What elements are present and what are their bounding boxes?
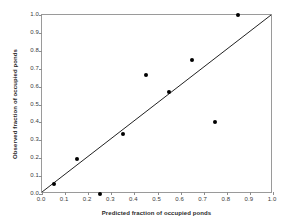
x-axis-tick-label: 0.5 [152,196,161,202]
x-axis-tick-label: 0.7 [198,196,207,202]
x-axis-tick-mark [65,192,66,195]
y-axis-tick-label: 0.4 [30,118,39,124]
y-axis-tick-mark [39,87,42,88]
x-axis-tick-label: 0.1 [60,196,69,202]
y-axis-tick-label: 0.3 [30,136,39,142]
data-point [190,58,194,62]
x-axis-tick-mark [158,192,159,195]
x-axis-tick-label: 0.0 [37,196,46,202]
x-axis-tick-mark [88,192,89,195]
scatter-plot-figure: Observed fraction of occupied ponds 0.00… [0,0,288,224]
x-axis-tick-mark [227,192,228,195]
y-axis-tick-mark [39,140,42,141]
x-axis-tick-mark [250,192,251,195]
y-axis-tick-mark [39,33,42,34]
x-axis-tick-mark [42,192,43,195]
y-axis-tick-mark [39,105,42,106]
data-point [98,192,102,196]
x-axis-tick-label: 0.3 [106,196,115,202]
y-axis-tick-mark [39,51,42,52]
data-point [121,132,125,136]
y-axis-tick-label: 0.2 [30,154,39,160]
data-point [75,157,79,161]
y-axis-tick-label: 0.9 [30,29,39,35]
cut-off-title [0,0,288,7]
x-axis-tick-label: 1.0 [268,196,277,202]
x-axis-tick-label: 0.9 [245,196,254,202]
x-axis-tick-label: 0.2 [83,196,92,202]
y-axis-title: Observed fraction of occupied ponds [10,14,20,193]
y-axis-tick-mark [39,158,42,159]
y-axis-tick-mark [39,15,42,16]
x-axis-tick-mark [111,192,112,195]
x-axis-tick-label: 0.6 [175,196,184,202]
data-point [52,182,56,186]
y-axis-tick-mark [39,176,42,177]
x-axis-tick-label: 0.8 [221,196,230,202]
x-axis-tick-mark [134,192,135,195]
y-axis-tick-label: 0.8 [30,47,39,53]
y-axis-tick-label: 0.1 [30,172,39,178]
data-point [213,120,217,124]
data-point [236,13,240,17]
y-axis-tick-label: 0.5 [30,101,39,107]
y-axis-tick-label: 1.0 [30,11,39,17]
data-point [144,73,148,77]
x-axis-tick-mark [273,192,274,195]
x-axis-title: Predicted fraction of occupied ponds [41,210,272,216]
x-axis-tick-label: 0.4 [129,196,138,202]
x-axis-tick-mark [181,192,182,195]
y-axis-tick-mark [39,69,42,70]
y-axis-title-text: Observed fraction of occupied ponds [12,49,18,159]
y-axis-tick-label: 0.6 [30,83,39,89]
y-axis-tick-mark [39,122,42,123]
y-axis-tick-label: 0.7 [30,65,39,71]
plot-area [41,14,272,193]
data-point [167,90,171,94]
data-points-layer [42,15,271,192]
x-axis-tick-mark [204,192,205,195]
